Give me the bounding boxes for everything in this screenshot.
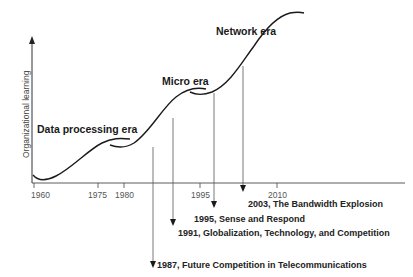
event-label-2003: 2003, The Bandwidth Explosion	[248, 200, 383, 209]
y-axis-arrow-icon	[29, 36, 35, 44]
x-tick-1975: 1975	[88, 191, 107, 200]
era-label-micro: Micro era	[162, 76, 209, 87]
arrow-down-icon	[170, 219, 176, 226]
era-label-data-processing: Data processing era	[37, 124, 137, 135]
arrow-down-icon	[211, 201, 217, 208]
arrow-down-icon	[150, 261, 156, 268]
x-tick-1960: 1960	[31, 191, 50, 200]
event-label-1987: 1987, Future Competition in Telecommunic…	[157, 261, 367, 270]
x-tick-1980: 1980	[115, 191, 134, 200]
x-tick-1995: 1995	[191, 191, 210, 200]
y-axis-label: Organizational learning	[22, 71, 31, 158]
learning-curve	[33, 12, 304, 179]
event-label-1991: 1991, Globalization, Technology, and Com…	[178, 229, 390, 238]
event-label-1995: 1995, Sense and Respond	[194, 215, 305, 224]
era-label-network: Network era	[216, 26, 276, 37]
arrow-down-icon	[240, 185, 246, 192]
